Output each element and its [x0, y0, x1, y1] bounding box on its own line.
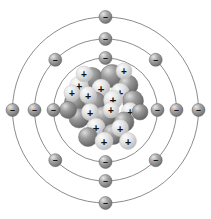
- proton-sphere: [80, 87, 97, 104]
- electron-sphere: [49, 53, 62, 66]
- electron-shell1-1: –: [99, 52, 112, 65]
- electron-sphere: [99, 11, 112, 24]
- proton-particle: +: [95, 132, 113, 150]
- proton-particle: +: [76, 66, 92, 82]
- electron-sphere: [151, 104, 164, 117]
- electron-shell3-2: –: [192, 104, 205, 117]
- proton-particle: +: [103, 102, 119, 118]
- neutron-particle: [132, 104, 148, 120]
- electron-sphere: [49, 154, 62, 167]
- electron-sphere: [47, 104, 60, 117]
- proton-particle: +: [80, 87, 97, 104]
- proton-particle: +: [64, 85, 80, 101]
- electron-shell2-5: –: [99, 175, 112, 188]
- electron-shell2-3: –: [170, 104, 183, 117]
- electron-sphere: [149, 154, 162, 167]
- neutron-particle: [79, 128, 98, 147]
- electron-sphere: [99, 52, 112, 65]
- electron-sphere: [192, 104, 205, 117]
- electron-sphere: [149, 53, 162, 66]
- electron-shell3-3: –: [99, 197, 112, 210]
- neutron-sphere: [60, 102, 77, 119]
- electron-sphere: [6, 104, 19, 117]
- electron-shell3-1: –: [99, 11, 112, 24]
- electron-shell2-2: –: [149, 53, 162, 66]
- electron-shell1-4: –: [47, 104, 60, 117]
- electron-shell2-4: –: [149, 154, 162, 167]
- proton-particle: +: [120, 133, 137, 150]
- atom-diagram-canvas: +++++++++++++++ ––––––––––––––––: [0, 0, 211, 219]
- proton-sphere: [116, 63, 132, 79]
- electron-sphere: [28, 104, 41, 117]
- electron-shell1-3: –: [99, 156, 112, 169]
- neutron-sphere: [132, 104, 148, 120]
- neutron-sphere: [79, 128, 98, 147]
- electron-sphere: [99, 156, 112, 169]
- electron-sphere: [99, 197, 112, 210]
- proton-sphere: [64, 85, 80, 101]
- nucleus-cluster: +++++++++++++++: [60, 63, 149, 150]
- electron-shell2-7: –: [28, 104, 41, 117]
- electron-sphere: [99, 175, 112, 188]
- bohr-atomic-model-figure: +++++++++++++++ –––––––––––––––– Bohr mo…: [0, 0, 211, 219]
- proton-sphere: [76, 66, 92, 82]
- neutron-particle: [60, 102, 77, 119]
- proton-sphere: [95, 132, 113, 150]
- electron-shell2-6: –: [49, 154, 62, 167]
- proton-sphere: [120, 133, 137, 150]
- electron-sphere: [170, 104, 183, 117]
- electron-shell1-2: –: [151, 104, 164, 117]
- electron-shell2-8: –: [49, 53, 62, 66]
- electron-sphere: [99, 33, 112, 46]
- electron-shell2-1: –: [99, 33, 112, 46]
- proton-sphere: [103, 102, 119, 118]
- electron-shell3-4: –: [6, 104, 19, 117]
- proton-particle: +: [116, 63, 132, 79]
